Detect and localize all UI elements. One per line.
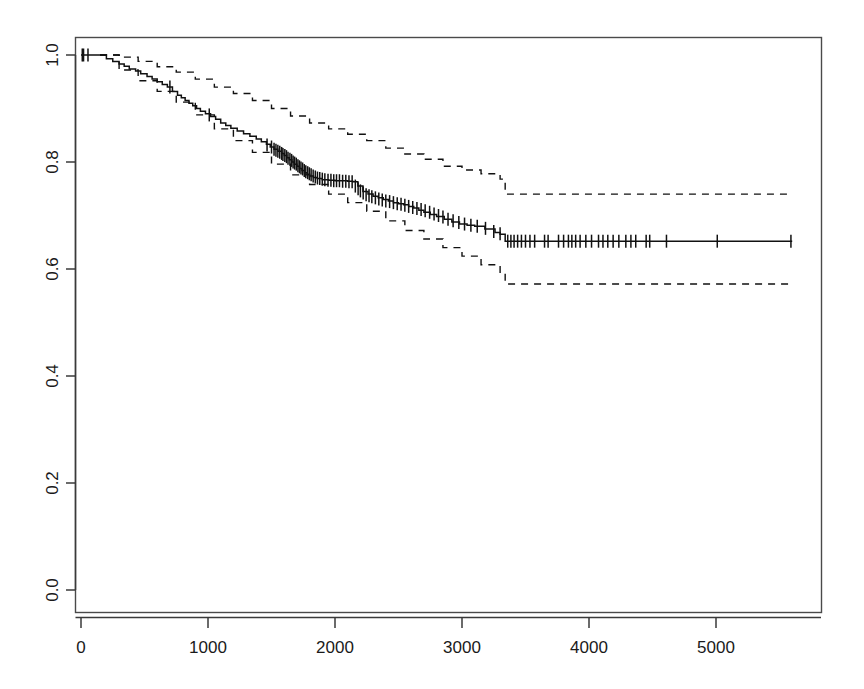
x-tick-label-4000: 4000: [570, 638, 608, 657]
y-tick-label-0.6: 0.6: [43, 257, 62, 281]
y-tick-label-1.0: 1.0: [43, 43, 62, 67]
x-tick-label-0: 0: [76, 638, 85, 657]
x-tick-label-2000: 2000: [316, 638, 354, 657]
y-tick-label-0.2: 0.2: [43, 471, 62, 495]
y-tick-label-0.8: 0.8: [43, 150, 62, 174]
survival-plot-figure: 0.00.20.40.60.81.0 010002000300040005000: [0, 0, 864, 689]
x-tick-label-5000: 5000: [697, 638, 735, 657]
y-tick-label-0.4: 0.4: [43, 364, 62, 388]
y-tick-label-0.0: 0.0: [43, 578, 62, 602]
x-tick-label-3000: 3000: [443, 638, 481, 657]
figure-background: [0, 0, 864, 689]
x-tick-label-1000: 1000: [189, 638, 227, 657]
kaplan-meier-chart: 0.00.20.40.60.81.0 010002000300040005000: [0, 0, 864, 689]
